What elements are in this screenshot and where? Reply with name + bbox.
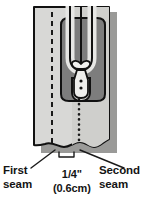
first-seam-line2: seam xyxy=(3,178,32,190)
measurement-metric: (0.6cm) xyxy=(53,181,91,195)
label-first-seam: First seam xyxy=(3,163,32,191)
second-seam-line1: Second xyxy=(99,164,140,176)
second-seam-line2: seam xyxy=(99,178,128,190)
slider-rivet-lower xyxy=(79,86,82,89)
label-second-seam: Second seam xyxy=(99,163,140,191)
slider-rivet-upper xyxy=(79,79,82,82)
measurement-imperial: 1/4" xyxy=(53,167,91,181)
first-seam-line1: First xyxy=(3,164,27,176)
zipper-seam-diagram: First seam Second seam 1/4" (0.6cm) xyxy=(0,0,158,200)
zipper-slider xyxy=(74,70,88,98)
label-measurement: 1/4" (0.6cm) xyxy=(53,167,91,195)
